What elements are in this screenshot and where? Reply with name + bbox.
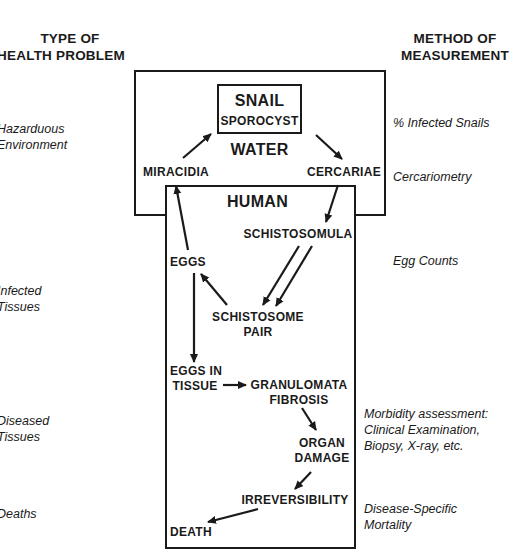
text-line: SCHISTOSOME <box>205 310 311 325</box>
arrow-organ-to-irreversibility <box>295 472 311 489</box>
text-line: Tissues <box>0 429 49 445</box>
arrow-miracidia-to-snail <box>183 134 211 158</box>
node-schistosome-pair: SCHISTOSOME PAIR <box>205 310 311 340</box>
text-line: Disease-Specific <box>364 501 457 517</box>
measurement-morbidity-assessment: Morbidity assessment: Clinical Examinati… <box>364 406 488 454</box>
text-line: TISSUE <box>170 379 220 394</box>
text-line: Cercariometry <box>393 169 472 185</box>
text-line: Diseased <box>0 413 49 429</box>
node-irreversibility: IRREVERSIBILITY <box>238 493 352 508</box>
sporocyst-label: SPOROCYST <box>218 114 301 129</box>
text-line: Morbidity assessment: <box>364 406 488 422</box>
text-line: Clinical Examination, <box>364 422 488 438</box>
health-problem-diseased-tissues: Diseased Tissues <box>0 413 49 445</box>
text-line: Environment <box>0 137 67 153</box>
arrow-eggs-to-miracidia <box>176 186 188 250</box>
human-label: HUMAN <box>205 192 310 211</box>
text-line: Egg Counts <box>393 253 458 269</box>
text-line: FIBROSIS <box>250 393 348 408</box>
node-granulomata-fibrosis: GRANULOMATA FIBROSIS <box>250 378 348 408</box>
header-line: MEASUREMENT <box>388 47 522 64</box>
header-line: TYPE OF <box>0 30 140 47</box>
text-line: ORGAN <box>290 436 354 451</box>
node-cercariae: CERCARIAE <box>306 165 382 180</box>
text-line: Mortality <box>364 517 457 533</box>
text-line: Tissues <box>0 299 41 315</box>
node-eggs: EGGS <box>170 255 206 270</box>
node-eggs-in-tissue: EGGS IN TISSUE <box>170 364 220 394</box>
measurement-disease-specific-mortality: Disease-Specific Mortality <box>364 501 457 533</box>
measurement-cercariometry: Cercariometry <box>393 169 472 185</box>
water-label: WATER <box>218 140 301 159</box>
snail-label: SNAIL <box>218 91 301 110</box>
text-line: Infected <box>0 283 41 299</box>
text-line: % Infected Snails <box>393 115 490 131</box>
measurement-header: METHOD OF MEASUREMENT <box>388 30 522 64</box>
arrow-pair-to-eggs <box>201 274 227 305</box>
health-problem-header: TYPE OF HEALTH PROBLEM <box>0 30 140 64</box>
header-line: METHOD OF <box>388 30 522 47</box>
node-death: DEATH <box>170 525 218 540</box>
text-line: DAMAGE <box>290 451 354 466</box>
node-organ-damage: ORGAN DAMAGE <box>290 436 354 466</box>
arrow-granulomata-to-organ <box>302 408 316 430</box>
arrow-cercariae-to-schistosomula <box>326 185 338 222</box>
text-line: PAIR <box>205 325 311 340</box>
health-problem-infected-tissues: Infected Tissues <box>0 283 41 315</box>
health-problem-hazardous-environment: Hazarduous Environment <box>0 121 67 153</box>
header-line: HEALTH PROBLEM <box>0 47 140 64</box>
measurement-egg-counts: Egg Counts <box>393 253 458 269</box>
arrow-snail-to-cercariae <box>316 135 342 159</box>
text-line: EGGS IN <box>170 364 220 379</box>
node-schistosomula: SCHISTOSOMULA <box>243 227 353 242</box>
text-line: Hazarduous <box>0 121 67 137</box>
text-line: Biopsy, X-ray, etc. <box>364 438 488 454</box>
health-problem-deaths: Deaths <box>0 506 37 522</box>
node-miracidia: MIRACIDIA <box>140 165 212 180</box>
text-line: GRANULOMATA <box>250 378 348 393</box>
life-cycle-diagram <box>0 0 522 557</box>
measurement-infected-snails: % Infected Snails <box>393 115 490 131</box>
text-line: Deaths <box>0 506 37 522</box>
arrow-irreversibility-to-death <box>208 509 258 522</box>
